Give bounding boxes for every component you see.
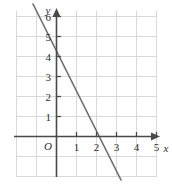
x-tick-label-2: 2: [94, 141, 100, 153]
y-tick-label-4: 4: [46, 51, 52, 63]
x-tick-label-3: 3: [114, 141, 120, 153]
y-axis-label: y: [45, 4, 51, 16]
figure-background: [0, 0, 172, 185]
x-tick-label-4: 4: [134, 141, 140, 153]
y-tick-label-1: 1: [46, 111, 52, 123]
coordinate-graph-figure: 1 2 3 4 5 1 2 3 4 5 6 O x y: [0, 0, 172, 185]
x-tick-label-5: 5: [154, 141, 160, 153]
x-tick-label-1: 1: [74, 141, 80, 153]
y-tick-label-5: 5: [46, 31, 52, 43]
y-tick-label-2: 2: [46, 91, 52, 103]
coordinate-graph-svg: 1 2 3 4 5 1 2 3 4 5 6 O x y: [0, 0, 172, 185]
origin-label: O: [44, 140, 52, 152]
x-axis-label: x: [163, 142, 169, 154]
y-tick-label-3: 3: [46, 71, 52, 83]
